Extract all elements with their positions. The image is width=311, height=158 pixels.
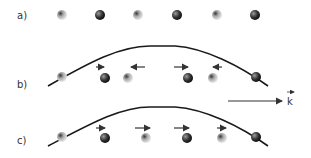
wave-curve [48, 107, 268, 146]
panel-a: a) [17, 10, 260, 21]
atom [100, 73, 110, 83]
atom [208, 73, 218, 83]
atom [133, 10, 143, 20]
panel-c: c) [17, 107, 268, 146]
wave-curve [48, 46, 268, 86]
atom [100, 133, 110, 143]
atom [212, 10, 222, 20]
panel-b: b) k [17, 46, 294, 107]
atom [250, 10, 260, 20]
atom [95, 10, 105, 20]
atom [172, 10, 182, 20]
atom [183, 73, 193, 83]
atom [217, 133, 227, 143]
panel-label-a: a) [17, 10, 27, 21]
atom [251, 132, 261, 142]
panel-label-c: c) [17, 135, 26, 146]
diagram-canvas: a) b) k c) [0, 0, 311, 158]
atom [123, 73, 133, 83]
atom [141, 133, 151, 143]
atom [57, 72, 67, 82]
wave-vector-label: k [287, 96, 293, 107]
panel-label-b: b) [17, 79, 27, 90]
atom [182, 133, 192, 143]
atom [251, 72, 261, 82]
atom [57, 132, 67, 142]
atom [57, 10, 67, 20]
